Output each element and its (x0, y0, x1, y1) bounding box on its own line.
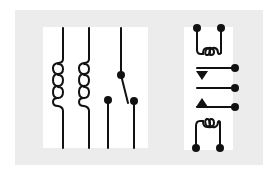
contact-terminal-3 (231, 103, 239, 111)
switch-common-dot (117, 71, 125, 79)
top-coil-terminal-left (193, 24, 201, 32)
relay-schematic-figure (0, 0, 276, 175)
switch-nc-dot (104, 96, 112, 104)
bottom-coil-terminal-left (192, 144, 200, 152)
bottom-coil-terminal-right (216, 144, 224, 152)
top-coil-terminal-right (217, 24, 225, 32)
switch-no-dot (130, 97, 138, 105)
contact-terminal-1 (231, 64, 239, 72)
contact-terminal-2 (231, 84, 239, 92)
